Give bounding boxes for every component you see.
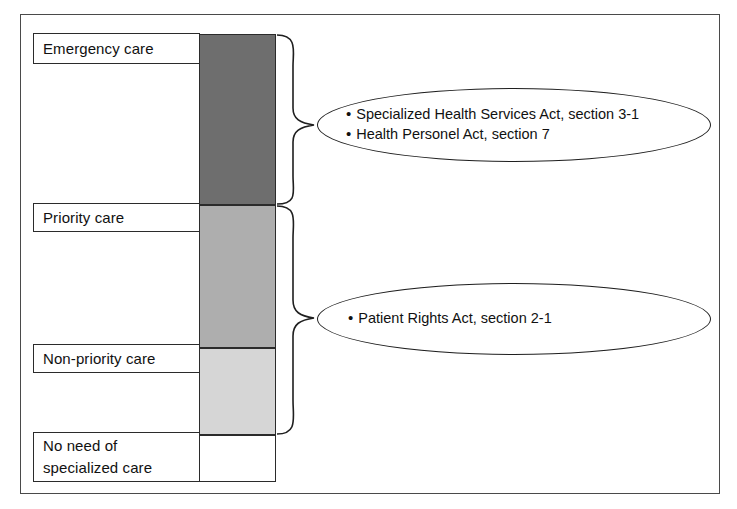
callout-item-text: Health Personel Act, section 7 [356,125,549,145]
label-line: Non-priority care [43,348,199,370]
callout-item: • Specialized Health Services Act, secti… [346,105,710,125]
bar-segment-priority [199,205,276,348]
bullet-icon: • [348,310,353,325]
label-line: No need of [43,435,199,457]
label-line: Emergency care [43,38,199,60]
label-box-no-need-of-specialized-care: No need of specialized care [33,432,200,482]
callout-ellipse-acts-patient: • Patient Rights Act, section 2-1 [317,283,711,355]
figure-border-frame [20,14,720,494]
bar-segment-non-priority [199,348,276,435]
figure-root: Emergency care Priority care Non-priorit… [0,0,737,509]
label-line: specialized care [43,457,199,479]
bullet-icon: • [346,106,351,121]
bullet-icon: • [346,126,351,141]
bar-segment-no-need [199,435,276,482]
label-box-emergency-care: Emergency care [33,33,200,64]
callout-item-text: Patient Rights Act, section 2-1 [358,309,551,329]
callout-item-text: Specialized Health Services Act, section… [356,105,639,125]
callout-item: • Patient Rights Act, section 2-1 [348,309,710,329]
bar-segment-emergency [199,34,276,205]
label-box-non-priority-care: Non-priority care [33,344,200,373]
label-line: Priority care [43,207,199,229]
callout-ellipse-acts-emergency: • Specialized Health Services Act, secti… [317,88,711,162]
label-box-priority-care: Priority care [33,203,200,232]
callout-item: • Health Personel Act, section 7 [346,125,710,145]
